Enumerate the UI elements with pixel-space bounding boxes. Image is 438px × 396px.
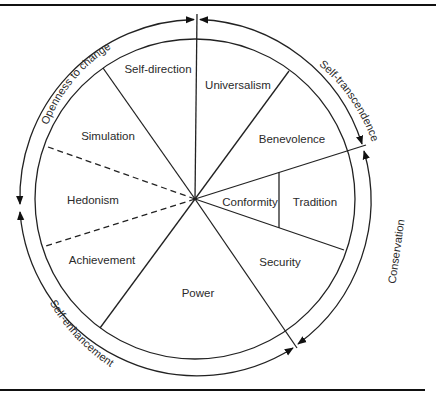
divider-benevolence-conformity	[195, 145, 366, 199]
segment-label-hedonism: Hedonism	[67, 194, 119, 206]
divider-security-power	[195, 199, 297, 348]
values-circle-diagram: Self-direction Universalism Simulation B…	[0, 0, 438, 396]
dashed-divider-simulation-hedonism	[48, 147, 195, 199]
segment-label-simulation: Simulation	[81, 130, 135, 142]
segment-label-universalism: Universalism	[205, 79, 271, 91]
divider-universalism-selfdirection	[195, 14, 197, 199]
arc-label-conservation: Conservation	[386, 219, 407, 285]
segment-label-conformity: Conformity	[222, 196, 278, 208]
arc-label-self-transcendence: Self-transcendence	[317, 57, 381, 142]
conservation-arc	[298, 151, 371, 344]
segment-label-benevolence: Benevolence	[259, 133, 326, 145]
arc-label-openness-to-change: Openness to change	[39, 40, 113, 126]
self-enhancement-arc	[20, 212, 293, 376]
dashed-divider-hedonism-achievement	[46, 199, 195, 246]
segment-label-tradition: Tradition	[293, 196, 337, 208]
segment-label-achievement: Achievement	[69, 254, 136, 266]
segment-label-power: Power	[182, 287, 215, 299]
segment-label-self-direction: Self-direction	[124, 63, 191, 75]
segment-label-security: Security	[259, 256, 301, 268]
arc-label-self-enhancement: Self-enhancement	[48, 298, 116, 369]
